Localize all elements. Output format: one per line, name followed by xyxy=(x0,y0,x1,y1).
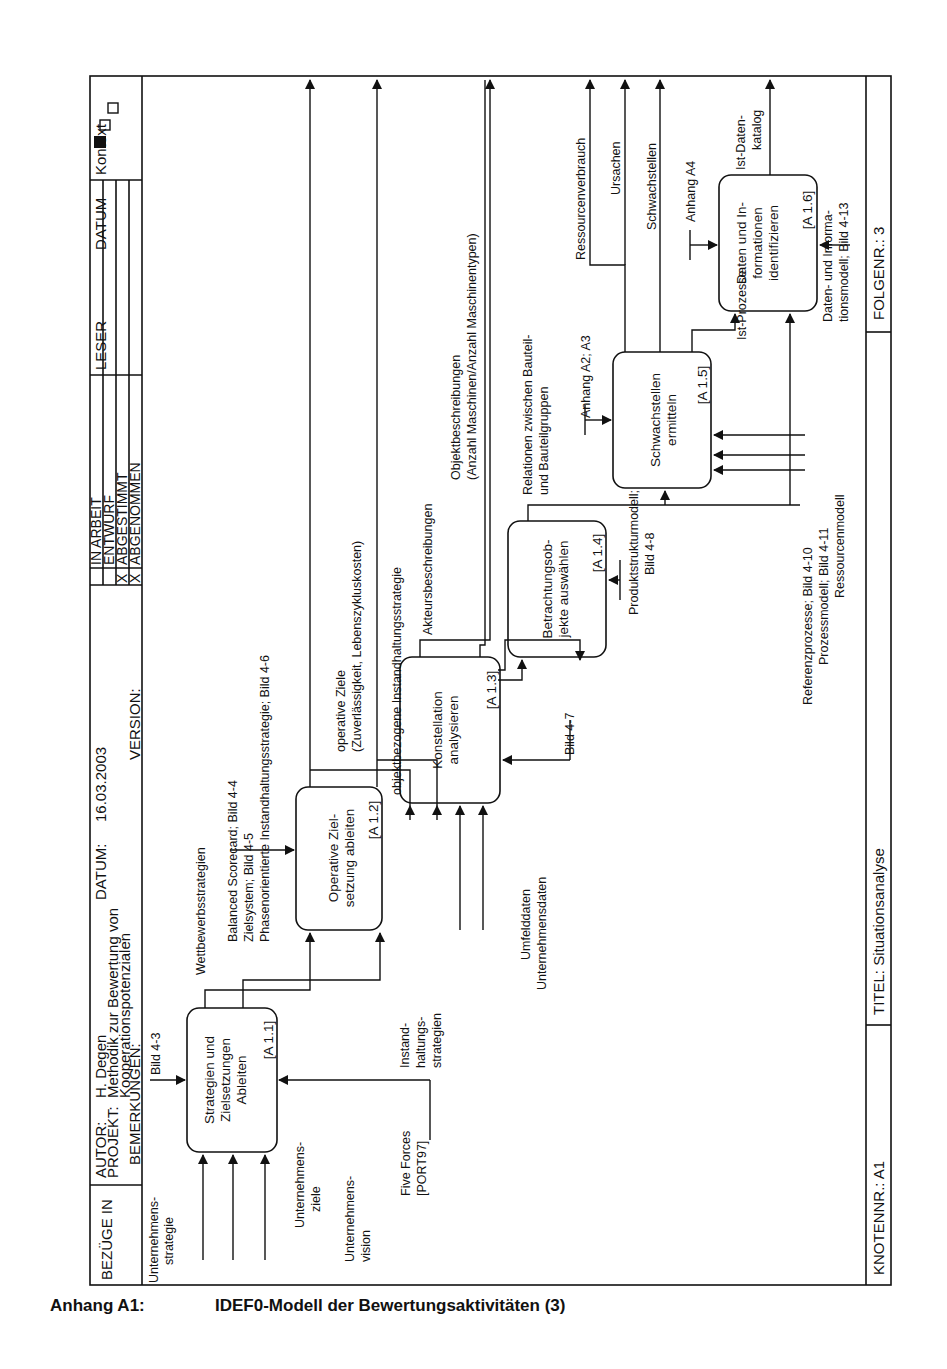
label-ist-daten-1: Ist-Daten- xyxy=(734,115,748,170)
label-u-strategie-2: strategie xyxy=(162,1217,176,1265)
label-op-ziele-1: operative Ziele xyxy=(334,670,348,752)
label-anhang-a2: Anhang A2; A3 xyxy=(579,335,593,418)
label-ressourcen: Ressourcenverbrauch xyxy=(574,138,588,260)
label-prozessmodell: Prozessmodell; Bild 4-11 xyxy=(817,528,831,665)
label-bild-4-3: Bild 4-3 xyxy=(149,1033,163,1075)
a15-tag: [A 1.5] xyxy=(695,366,710,404)
bezuege-label: BEZÜGE IN xyxy=(98,1199,115,1280)
label-bsc-1: Balanced Scorecard; Bild 4-4 xyxy=(226,780,240,942)
label-five-forces-2: [PORT97] xyxy=(415,1141,429,1196)
label-u-vision-1: Unternehmens- xyxy=(343,1176,357,1262)
label-objektbeschr-1: Objektbeschreibungen xyxy=(449,355,463,480)
folgenr: FOLGENR.: 3 xyxy=(870,227,887,320)
label-bsc-3: Phasenorientierte Instandhaltungsstrateg… xyxy=(258,655,272,942)
label-ursachen: Ursachen xyxy=(609,141,623,195)
a15-line2: ermitteln xyxy=(664,394,679,446)
label-u-ziele-1: Unternehmens- xyxy=(293,1142,307,1228)
label-datenmodell-1: Daten- und Informa- xyxy=(821,210,835,322)
label-five-forces-1: Five Forces xyxy=(399,1131,413,1196)
a16-line3: identifizieren xyxy=(766,205,781,281)
a14-line2: jekte auswählen xyxy=(556,541,571,639)
label-wettbewerb: Wettbewerbsstrategien xyxy=(194,847,208,975)
label-unternehmensdaten: Unternehmensdaten xyxy=(535,877,549,990)
leser-label: LESER xyxy=(92,321,109,370)
version-label: VERSION: xyxy=(126,688,143,760)
label-ressourcenmodell: Ressourcenmodell xyxy=(833,494,847,598)
datum-col-label: DATUM xyxy=(92,198,109,250)
idef0-diagram-page: BEZÜGE IN AUTOR: H. Degen DATUM: 16.03.2… xyxy=(0,0,947,1369)
label-instand-2: haltungs- xyxy=(414,1017,428,1068)
label-produkt-2: Bild 4-8 xyxy=(643,533,657,575)
kontext-label: Kontext xyxy=(92,123,109,175)
a11-line1: Strategien und xyxy=(202,1036,217,1124)
a16-line2: formationen xyxy=(750,207,765,278)
label-ist-prozesse: Ist-Prozesse xyxy=(735,270,749,340)
label-produkt-1: Produktstrukturmodell; xyxy=(627,490,641,615)
a11-tag: [A 1.1] xyxy=(261,1021,276,1059)
label-datenmodell-2: tionsmodell; Bild 4-13 xyxy=(837,202,851,322)
idef0-diagram: BEZÜGE IN AUTOR: H. Degen DATUM: 16.03.2… xyxy=(0,0,947,1369)
label-relationen-1: Relationen zwischen Bauteil- xyxy=(521,334,535,495)
a12-line2: setzung ableiten xyxy=(342,809,357,907)
label-referenz: Referenzprozesse; Bild 4-10 xyxy=(801,547,815,705)
a15-line1: Schwachstellen xyxy=(648,373,663,467)
a13-line2: analysieren xyxy=(446,695,461,764)
label-u-ziele-2: ziele xyxy=(309,1186,323,1212)
a11-line3: Ableiten xyxy=(234,1056,249,1105)
label-instand-1: Instand- xyxy=(398,1023,412,1068)
label-bsc-2: Zielsystem; Bild 4-5 xyxy=(242,833,256,942)
label-instand-3: strategien xyxy=(430,1013,444,1068)
label-akteure: Akteursbeschreibungen xyxy=(421,504,435,635)
datum-label: DATUM: xyxy=(92,844,109,900)
label-relationen-2: und Bauteilgruppen xyxy=(537,387,551,495)
projekt-label: PROJEKT: xyxy=(104,1106,121,1178)
a13-tag: [A 1.3] xyxy=(484,671,499,709)
bemerkungen-label: BEMERKUNGEN: xyxy=(126,1043,143,1165)
titel: TITEL: Situationsanalyse xyxy=(870,848,887,1015)
a16-tag: [A 1.6] xyxy=(800,191,815,229)
figure-caption: Anhang A1: IDEF0-Modell der Bewertungsak… xyxy=(50,1296,145,1316)
status-mark-abgenommen: X xyxy=(127,573,143,583)
datum-value: 16.03.2003 xyxy=(92,747,109,822)
label-schwachstellen: Schwachstellen xyxy=(645,143,659,230)
knotennr: KNOTENNR.: A1 xyxy=(870,1161,887,1275)
label-objektbeschr-2: (Anzahl Maschinen/Anzahl Maschinentypen) xyxy=(465,233,479,480)
label-anhang-a4: Anhang A4 xyxy=(684,161,698,222)
label-op-ziele-2: (Zuverlässigkeit, Lebenszykluskosten) xyxy=(350,541,364,752)
label-objektbez: objektbezogene Instandhaltungsstrategie xyxy=(390,567,404,795)
label-bild-4-7: Bild 4-7 xyxy=(563,713,577,755)
caption-title: IDEF0-Modell der Bewertungsaktivitäten (… xyxy=(215,1296,565,1316)
label-umfelddaten: Umfelddaten xyxy=(519,889,533,960)
label-ist-daten-2: katalog xyxy=(750,110,764,150)
a14-tag: [A 1.4] xyxy=(590,534,605,572)
a12-tag: [A 1.2] xyxy=(366,801,381,839)
a13-line1: Konstellation xyxy=(430,691,445,768)
a12-line1: Operative Ziel- xyxy=(326,814,341,903)
label-u-vision-2: vision xyxy=(359,1230,373,1262)
a14-line1: Betrachtungsob- xyxy=(540,539,555,638)
label-u-strategie-1: Unternehmens- xyxy=(147,1197,161,1283)
caption-label: Anhang A1: xyxy=(50,1296,145,1315)
a11-line2: Zielsetzungen xyxy=(218,1038,233,1122)
status-abgenommen: ABGENOMMEN xyxy=(127,462,143,565)
